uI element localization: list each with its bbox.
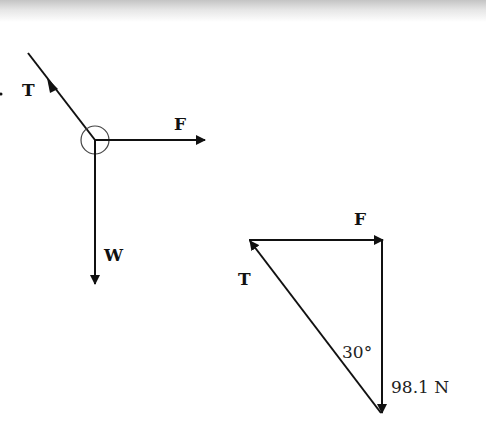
force-diagram: T F W F T 30° 98.1 N xyxy=(0,0,486,436)
triangle-tension-label: T xyxy=(238,269,251,289)
weight-value-label: 98.1 N xyxy=(391,377,449,397)
weight-label: W xyxy=(103,245,124,265)
triangle-force-label: F xyxy=(354,209,366,229)
stray-dot xyxy=(0,93,3,96)
force-triangle: F T 30° 98.1 N xyxy=(238,209,449,413)
force-label: F xyxy=(174,114,186,134)
free-body-diagram: T F W xyxy=(0,53,205,284)
angle-label: 30° xyxy=(342,342,372,362)
tension-label: T xyxy=(22,80,35,100)
tension-line xyxy=(28,53,95,140)
triangle-tension-arrow xyxy=(250,241,381,413)
